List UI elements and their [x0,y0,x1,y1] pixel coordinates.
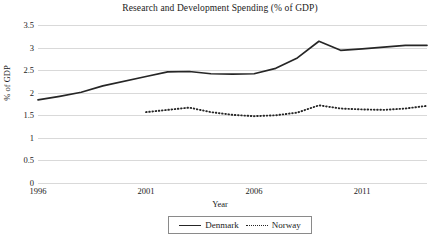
chart-legend: Denmark Norway [168,216,312,234]
chart-container: Research and Development Spending (% of … [0,0,440,241]
legend-line-solid-icon [179,225,201,226]
series-lines [38,25,427,183]
plot-area [38,25,427,183]
legend-label-denmark: Denmark [205,220,239,230]
legend-item-denmark: Denmark [179,220,239,230]
y-tick-label: 1 [0,133,34,142]
x-tick-label: 2006 [232,186,276,196]
x-tick-label: 2001 [124,186,168,196]
series-line-norway [146,105,427,116]
gridline [38,183,427,184]
x-tick-label: 1996 [16,186,60,196]
y-tick-label: 3.5 [0,21,34,30]
y-tick-label: 0.5 [0,156,34,165]
series-line-denmark [38,41,427,100]
legend-item-norway: Norway [246,220,301,230]
chart-title: Research and Development Spending (% of … [0,3,440,13]
x-tick-label: 2011 [340,186,384,196]
legend-line-dotted-icon [246,225,268,226]
legend-label-norway: Norway [272,220,301,230]
y-axis-title: % of GDP [2,48,12,118]
x-axis-title: Year [0,199,440,209]
